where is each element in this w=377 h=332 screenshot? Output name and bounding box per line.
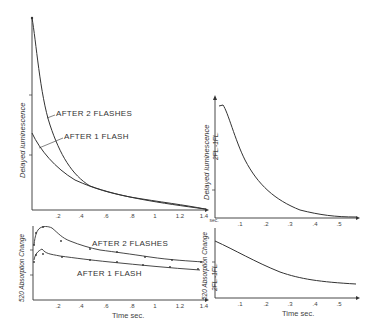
tl-tick: 1.2	[176, 213, 184, 219]
br-y-label: 520 Absorption Change	[201, 232, 208, 300]
tl-tick: .4	[78, 213, 83, 219]
bl-tick: .8	[129, 303, 134, 309]
bl-tick: .2	[55, 303, 60, 309]
br-tick: .5	[336, 301, 341, 307]
tr-y-sublabel: 2FL.-1FL.	[212, 132, 219, 160]
tr-tick: .5	[336, 221, 341, 227]
tl-tick: .6	[103, 213, 108, 219]
tl-x-unit: sec.	[209, 217, 218, 223]
bl-annotation-2-flashes: AFTER 2 FLASHES	[92, 239, 168, 248]
tl-tick: .8	[129, 213, 134, 219]
tl-annotation-1-flash: AFTER 1 FLASH	[64, 132, 129, 141]
tr-tick: .1	[237, 221, 242, 227]
bl-tick: .4	[78, 303, 83, 309]
bl-tick: .6	[103, 303, 108, 309]
tl-annotation-2-flashes: AFTER 2 FLASHES	[56, 109, 132, 118]
tr-tick: .4	[312, 221, 317, 227]
br-tick: .4	[312, 301, 317, 307]
tr-curve-diff	[219, 105, 356, 217]
br-x-label: Time sec.	[282, 309, 314, 318]
bl-y-label: 520 Absorption Change	[18, 234, 25, 302]
bl-tick: 1.2	[176, 303, 184, 309]
tr-y-label: Delayed luminescence	[202, 125, 211, 200]
bl-x-label: Time sec.	[112, 311, 144, 320]
br-y-sublabel: 2FL.-1FL.	[211, 263, 218, 291]
tl-tick: .2	[55, 213, 60, 219]
figure-canvas	[0, 0, 377, 332]
tl-tick: 1	[153, 213, 156, 219]
br-tick: .1	[237, 301, 242, 307]
bl-tick: 1	[153, 303, 156, 309]
bl-annotation-1-flash: AFTER 1 FLASH	[77, 269, 142, 278]
bl-tick: 1.4	[200, 303, 208, 309]
tl-y-label: Delayed luminescence	[18, 103, 27, 178]
br-curve-diff	[215, 241, 356, 284]
br-tick: .2	[263, 301, 268, 307]
tl-tick: 1.4	[200, 213, 208, 219]
tr-tick: .2	[263, 221, 268, 227]
tr-tick: .3	[287, 221, 292, 227]
br-tick: .3	[287, 301, 292, 307]
